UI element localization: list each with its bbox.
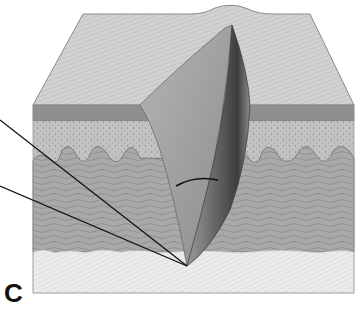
panel-label: C (4, 280, 23, 306)
skin-diagram: C (0, 0, 364, 317)
